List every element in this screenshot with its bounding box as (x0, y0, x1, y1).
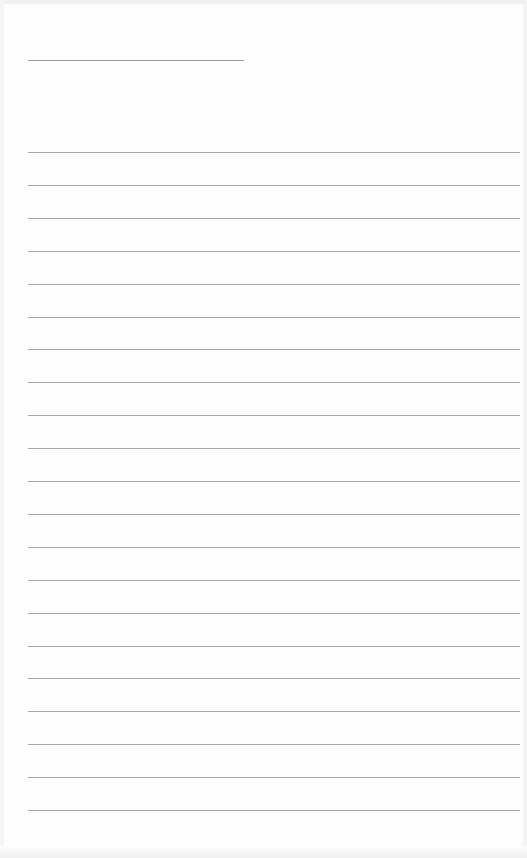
lined-paper-page (0, 0, 527, 858)
ruled-line (28, 711, 520, 712)
ruled-line (28, 514, 520, 515)
ruled-line (28, 481, 520, 482)
ruled-line (28, 415, 520, 416)
ruled-line (28, 317, 520, 318)
ruled-line (28, 646, 520, 647)
ruled-line (28, 744, 520, 745)
ruled-line (28, 613, 520, 614)
ruled-line (28, 810, 520, 811)
ruled-line (28, 152, 520, 153)
ruled-line (28, 251, 520, 252)
ruled-line (28, 777, 520, 778)
ruled-line (28, 218, 520, 219)
ruled-line (28, 678, 520, 679)
ruled-line (28, 580, 520, 581)
ruled-line (28, 382, 520, 383)
header-name-line (28, 60, 244, 61)
ruled-line (28, 448, 520, 449)
ruled-line (28, 185, 520, 186)
page-left-edge (0, 0, 4, 858)
ruled-line (28, 349, 520, 350)
ruled-line (28, 284, 520, 285)
page-right-edge (523, 0, 527, 858)
ruled-line (28, 547, 520, 548)
page-bottom-edge (0, 846, 527, 858)
page-top-edge (0, 0, 527, 4)
